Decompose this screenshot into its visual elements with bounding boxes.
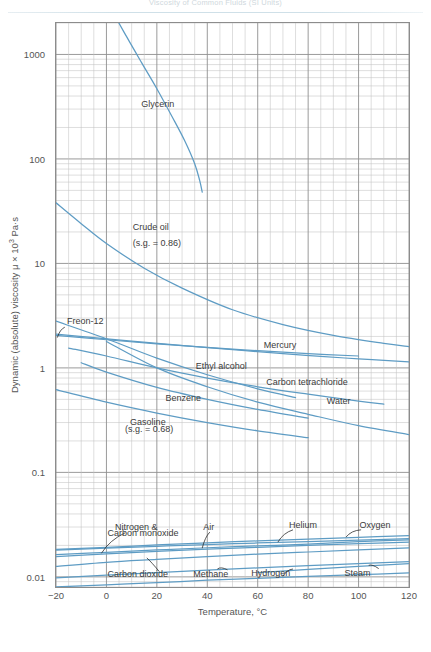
curve-layer [56,23,409,587]
curve-label-s-g-0-86: (s.g. = 0.86) [133,238,181,249]
curve-label-carbon-dioxide: Carbon dioxide [107,569,168,580]
curve-crude-oil-s-g-0-86 [56,203,409,347]
curve-label-carbon-monoxide: Carbon monoxide [107,528,178,539]
x-tick-60: 60 [252,590,263,601]
plot-area: GlycerinCrude oil(s.g. = 0.86)Freon-12Me… [55,22,410,588]
curve-ethyl-alcohol [56,321,296,397]
y-axis-title: Dynamic (absolute) viscosity μ × 103 Pa·… [8,22,26,588]
x-tick-40: 40 [202,590,213,601]
curve-label-ethyl-alcohol: Ethyl alcohol [196,361,247,372]
header-rule [8,12,423,13]
x-axis-tick-labels: −20020406080100120 [55,590,410,606]
x-axis-title: Temperature, °C [55,606,410,617]
curve-label-air: Air [203,522,214,533]
curve-label-oxygen: Oxygen [360,520,391,531]
curve-label-freon-12: Freon-12 [67,316,104,327]
y-tick-1: 1 [40,362,45,373]
leader-line-4 [346,530,361,537]
curve-label-crude-oil: Crude oil [133,222,169,233]
x-tick-100: 100 [351,590,367,601]
y-tick-1000: 1000 [24,49,45,60]
y-tick-0.1: 0.1 [32,467,45,478]
curve-label-methane: Methane [193,569,228,580]
y-tick-0.01: 0.01 [27,571,46,582]
curve-label-benzene: Benzene [165,393,201,404]
curve-freon-12 [56,334,409,362]
x-tick-20: 20 [152,590,163,601]
running-header: Viscosity of Common Fluids (SI Units) [0,0,431,7]
curve-label-steam: Steam [344,568,370,579]
curve-label-mercury: Mercury [264,340,297,351]
curve-label-carbon-tetrachloride: Carbon tetrachloride [266,377,348,388]
x-tick-80: 80 [303,590,314,601]
x-tick-120: 120 [401,590,417,601]
y-tick-10: 10 [34,258,45,269]
curve-label-helium: Helium [289,520,317,531]
leader-line-2 [202,532,210,548]
curve-label-s-g-0-68: (s.g. = 0.68) [125,424,173,435]
x-tick--20: −20 [48,590,64,601]
curve-label-water: Water [327,396,351,407]
curve-label-glycerin: Glycerin [141,99,174,110]
y-tick-100: 100 [29,153,45,164]
chart-page: Viscosity of Common Fluids (SI Units) 0.… [0,0,431,652]
x-tick-0: 0 [104,590,109,601]
curve-label-hydrogen: Hydrogen [251,568,290,579]
